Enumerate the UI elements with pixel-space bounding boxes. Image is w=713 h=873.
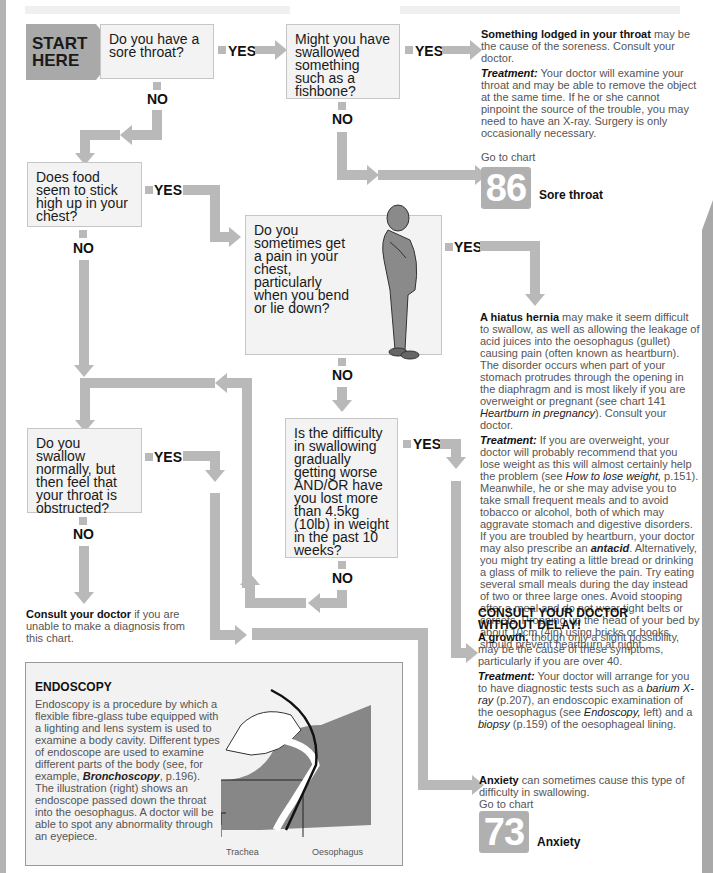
page-left-edge bbox=[0, 0, 6, 873]
arrow-down-icon bbox=[74, 592, 94, 604]
arrow-down-icon bbox=[525, 294, 545, 306]
chart-73-badge[interactable]: 73 bbox=[479, 811, 529, 853]
go-to-chart-label: Go to chart bbox=[479, 798, 699, 810]
yes-marker bbox=[405, 46, 413, 54]
arrow-left-icon bbox=[308, 593, 320, 613]
connector bbox=[418, 628, 428, 788]
no-marker bbox=[338, 102, 346, 110]
outcome-title: Anxiety bbox=[479, 774, 519, 786]
outcome-title: A hiatus hernia bbox=[480, 311, 559, 323]
question-text: Might you have swallowed something such … bbox=[295, 31, 390, 99]
no-marker bbox=[79, 517, 87, 525]
go-to-chart-label: Go to chart bbox=[481, 151, 535, 163]
outcome-hiatus-hernia: A hiatus hernia may make it seem difficu… bbox=[480, 311, 700, 650]
yes-marker bbox=[218, 46, 226, 54]
treatment-text: (p.159) of the oesophageal lining. bbox=[510, 718, 676, 730]
question-text: Do you have a sore throat? bbox=[109, 31, 199, 60]
question-swallowed-object[interactable]: Might you have swallowed something such … bbox=[286, 24, 400, 99]
connector bbox=[210, 630, 235, 640]
oesophagus-label: Oesophagus bbox=[312, 847, 363, 857]
no-marker bbox=[338, 561, 346, 569]
connector bbox=[451, 439, 461, 459]
yes-marker bbox=[445, 243, 453, 251]
arrow-right-icon bbox=[229, 227, 241, 247]
top-strip-right bbox=[400, 6, 680, 14]
bronchoscopy-link[interactable]: Bronchoscopy bbox=[83, 770, 160, 782]
no-label: NO bbox=[332, 112, 353, 126]
question-sore-throat[interactable]: Do you have a sore throat? bbox=[100, 24, 214, 79]
treatment-label: Treatment: bbox=[478, 670, 535, 682]
yes-label: YES bbox=[228, 44, 256, 58]
question-throat-obstructed[interactable]: Do you swallow normally, but then feel t… bbox=[27, 428, 142, 513]
no-label: NO bbox=[147, 92, 168, 106]
connector bbox=[451, 648, 466, 658]
start-here-arrow: START HERE bbox=[26, 24, 96, 80]
chart-141-link[interactable]: Heartburn in pregnancy bbox=[480, 407, 595, 419]
arrow-left-icon bbox=[215, 373, 227, 393]
question-text: Is the difficulty in swallowing graduall… bbox=[294, 425, 389, 558]
treatment-text: left) and a bbox=[640, 706, 692, 718]
chart-73-name[interactable]: Anxiety bbox=[537, 835, 580, 849]
question-worsening-weight-loss[interactable]: Is the difficulty in swallowing graduall… bbox=[285, 418, 398, 558]
start-label-2: HERE bbox=[32, 52, 96, 69]
outcome-anxiety: Anxiety can sometimes cause this type of… bbox=[479, 774, 699, 810]
connector bbox=[442, 46, 470, 54]
connector bbox=[210, 451, 220, 471]
question-food-sticks[interactable]: Does food seem to stick high up in your … bbox=[27, 162, 142, 227]
chart-86-name[interactable]: Sore throat bbox=[539, 188, 603, 202]
endoscopy-link[interactable]: Endoscopy, bbox=[584, 706, 641, 718]
connector bbox=[530, 241, 540, 296]
connector bbox=[210, 232, 230, 242]
connector bbox=[80, 378, 90, 423]
no-label: NO bbox=[73, 241, 94, 255]
no-label: NO bbox=[332, 368, 353, 382]
endoscopy-text: Endoscopy is a procedure by which a flex… bbox=[35, 698, 220, 842]
yes-label: YES bbox=[154, 183, 182, 197]
connector bbox=[132, 130, 162, 140]
antacid-link[interactable]: antacid bbox=[591, 542, 630, 554]
no-marker bbox=[153, 82, 161, 90]
arrow-down-icon bbox=[205, 470, 225, 482]
question-text: Does food seem to stick high up in your … bbox=[36, 169, 128, 224]
no-marker bbox=[338, 358, 346, 366]
connector bbox=[250, 598, 306, 608]
yes-label: YES bbox=[415, 44, 443, 58]
connector bbox=[210, 493, 220, 638]
chart-86-badge[interactable]: 86 bbox=[481, 167, 531, 209]
endoscopy-title: ENDOSCOPY bbox=[35, 680, 112, 694]
page-right-tab bbox=[702, 230, 713, 873]
outcome-lodged: Something lodged in your throat may be t… bbox=[481, 28, 701, 139]
yes-marker bbox=[145, 453, 153, 461]
no-label: NO bbox=[73, 527, 94, 541]
yes-label: YES bbox=[154, 450, 182, 464]
yes-label: YES bbox=[413, 437, 441, 451]
outcome-text: may make it seem difficult to swallow, a… bbox=[480, 311, 700, 407]
connector bbox=[255, 46, 275, 54]
arrow-right-icon bbox=[235, 625, 247, 645]
urgent-heading: WITHOUT DELAY! bbox=[478, 619, 700, 631]
arrow-left-icon bbox=[120, 125, 132, 145]
outcome-title: A growth, bbox=[478, 631, 528, 643]
arrow-down-icon bbox=[332, 400, 352, 412]
connector bbox=[79, 260, 89, 370]
outcome-title: Consult your doctor bbox=[26, 608, 131, 620]
connector bbox=[451, 481, 461, 656]
top-strip bbox=[25, 6, 290, 14]
connector bbox=[245, 585, 255, 608]
arrow-right-icon bbox=[466, 643, 478, 663]
trachea-label: Trachea bbox=[226, 847, 259, 857]
how-to-lose-weight-link[interactable]: How to lose weight, bbox=[566, 470, 661, 482]
treatment-label: Treatment: bbox=[480, 434, 537, 446]
connector bbox=[80, 130, 90, 155]
connector bbox=[85, 378, 215, 388]
biopsy-link[interactable]: biopsy bbox=[478, 718, 510, 730]
question-text: Do you sometimes get a pain in your ches… bbox=[254, 224, 354, 315]
yes-marker bbox=[145, 186, 153, 194]
endoscope-throat-illustration bbox=[221, 685, 401, 845]
treatment-label: Treatment: bbox=[481, 67, 538, 79]
connector bbox=[79, 546, 89, 594]
outcome-title: Something lodged in your throat bbox=[481, 28, 651, 40]
question-text: Do you swallow normally, but then feel t… bbox=[36, 435, 117, 516]
outcome-growth: CONSULT YOUR DOCTOR WITHOUT DELAY! A gro… bbox=[478, 607, 700, 730]
connector bbox=[378, 170, 475, 180]
